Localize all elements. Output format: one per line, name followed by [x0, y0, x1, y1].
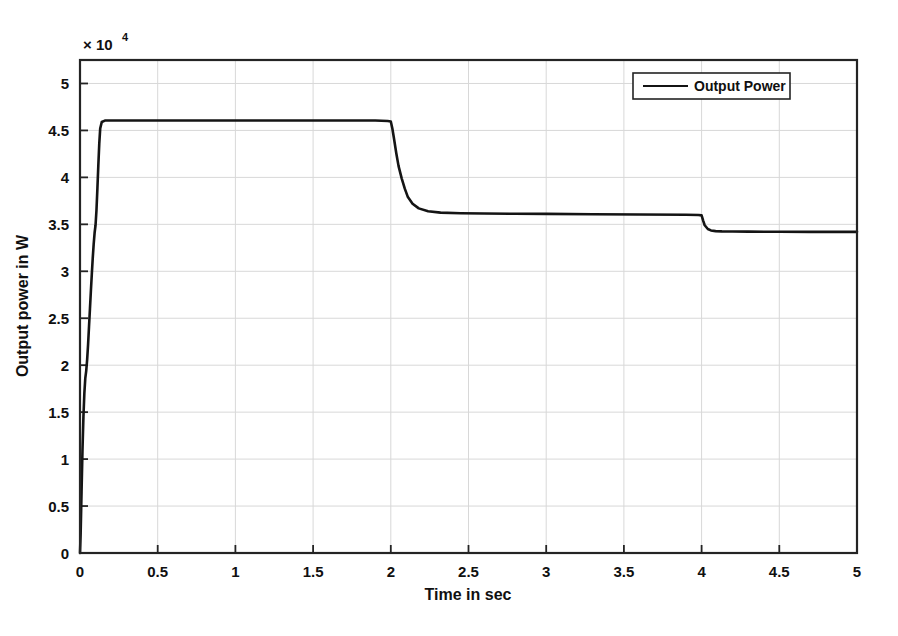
- x-tick-label: 0.5: [147, 563, 168, 580]
- x-axis-title: Time in sec: [425, 586, 512, 603]
- x-tick-label: 4: [697, 563, 706, 580]
- x-tick-label: 1.5: [303, 563, 324, 580]
- y-tick-label: 0.5: [48, 498, 69, 515]
- y-tick-label: 1.5: [48, 404, 69, 421]
- x-tick-label: 5: [853, 563, 861, 580]
- y-tick-label: 5: [61, 75, 69, 92]
- chart-figure: 00.511.522.533.544.55 00.511.522.533.544…: [0, 0, 898, 636]
- y-axis-title: Output power in W: [14, 234, 31, 377]
- y-tick-label: 2.5: [48, 310, 69, 327]
- y-tick-label: 0: [61, 545, 69, 562]
- y-tick-label: 3.5: [48, 216, 69, 233]
- legend[interactable]: Output Power: [633, 73, 790, 99]
- legend-label-output-power: Output Power: [694, 78, 786, 94]
- y-tick-label: 4.5: [48, 122, 69, 139]
- x-tick-label: 3: [542, 563, 550, 580]
- y-tick-label: 4: [61, 169, 70, 186]
- y-tick-label: 1: [61, 451, 69, 468]
- x-tick-label: 2: [387, 563, 395, 580]
- y-tick-label: 2: [61, 357, 69, 374]
- y-axis-exponent-prefix: × 10: [83, 36, 113, 53]
- x-tick-label: 2.5: [458, 563, 479, 580]
- output-power-line-chart: 00.511.522.533.544.55 00.511.522.533.544…: [0, 0, 898, 636]
- y-tick-label: 3: [61, 263, 69, 280]
- x-tick-label: 4.5: [769, 563, 790, 580]
- x-tick-label: 1: [231, 563, 239, 580]
- x-tick-label: 3.5: [613, 563, 634, 580]
- x-tick-label: 0: [76, 563, 84, 580]
- y-axis-exponent-power: 4: [122, 31, 129, 43]
